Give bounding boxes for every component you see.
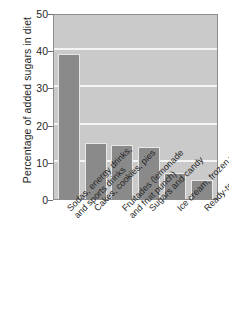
bar (58, 54, 80, 199)
x-tick-label: Cakes, cookies, pies (92, 206, 99, 213)
x-tick-label-line: Ready-to-eat cereals (202, 206, 209, 213)
bar-chart-figure: Percentage of added sugars in diet 01020… (0, 0, 229, 323)
x-tick-label-line: Sugars and candy (147, 206, 154, 213)
x-axis-tick-labels: Sodas, energy drinks,and sports drinksCa… (0, 200, 229, 323)
x-tick-label: Sodas, energy drinks,and sports drinks (65, 206, 79, 220)
x-tick-label: Ready-to-eat cereals (202, 206, 209, 213)
y-axis-title: Percentage of added sugars in diet (21, 0, 33, 200)
y-tick-label: 20 (22, 120, 48, 132)
x-tick-label: Fruitades (lemonadeand fruit punch) (120, 206, 134, 220)
x-tick-label-line: and fruit punch) (127, 213, 134, 220)
x-tick-label-line: Cakes, cookies, pies (92, 206, 99, 213)
x-tick-label-line: Sodas, energy drinks, (65, 206, 72, 213)
x-tick-label: Sugars and candy (147, 206, 154, 213)
y-tick-label: 40 (22, 45, 48, 57)
x-tick-label-line: Ice cream, frozen yogurt (175, 206, 182, 213)
y-tick-label: 50 (22, 8, 48, 20)
y-tick-label: 30 (22, 82, 48, 94)
x-tick-label: Ice cream, frozen yogurt (175, 206, 182, 213)
x-tick-label-line: Fruitades (lemonade (120, 206, 127, 213)
y-tick-label: 10 (22, 157, 48, 169)
x-tick-label-line: and sports drinks (72, 213, 79, 220)
